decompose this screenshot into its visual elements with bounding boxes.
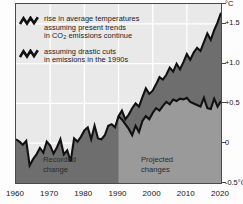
x-axis-tick-label: 1960 [0,189,30,198]
y-axis-tick-label: +0.5 [225,98,240,107]
x-axis-tick-label: 1990 [103,189,133,198]
legend-label-drastic-cuts: assuming drastic cutsin emissions in the… [44,48,128,65]
temperature-change-figure: Recorded change Projected changes rise i… [0,0,243,204]
zigzag-line-icon [19,49,39,60]
legend-line-3-pre: in CO [44,31,63,40]
plot-area: Recorded change Projected changes rise i… [15,3,222,184]
annotation-recorded-change: Recorded change [43,155,76,174]
legend-item-drastic-cuts: assuming drastic cutsin emissions in the… [19,48,169,65]
annotation-projected-changes: Projected changes [141,155,173,174]
legend-item-present-trends: rise in average temperaturesassuming pre… [19,15,169,42]
x-axis-tick-label: 1970 [34,189,64,198]
x-axis-tick-label: 2010 [171,189,201,198]
x-axis-tick-label: 2020 [205,189,235,198]
x-axis-tick-label: 1980 [68,189,98,198]
chart-legend: rise in average temperaturesassuming pre… [19,15,169,71]
y-axis-tick-label: -0.5°C [225,178,243,187]
y-axis-tick-label: °C [225,0,233,8]
y-axis-tick-label: +1.0 [225,58,240,67]
legend-line-2: in emissions in the 1990s [44,55,128,64]
x-axis-tick-label: 2000 [137,189,167,198]
legend-line-3-post: emissions continue [66,31,132,40]
y-axis-tick-label: +1.5 [225,18,240,27]
zigzag-line-icon [19,16,39,27]
legend-label-present-trends: rise in average temperaturesassuming pre… [44,15,139,42]
y-axis-tick-label: 0 [225,138,229,147]
